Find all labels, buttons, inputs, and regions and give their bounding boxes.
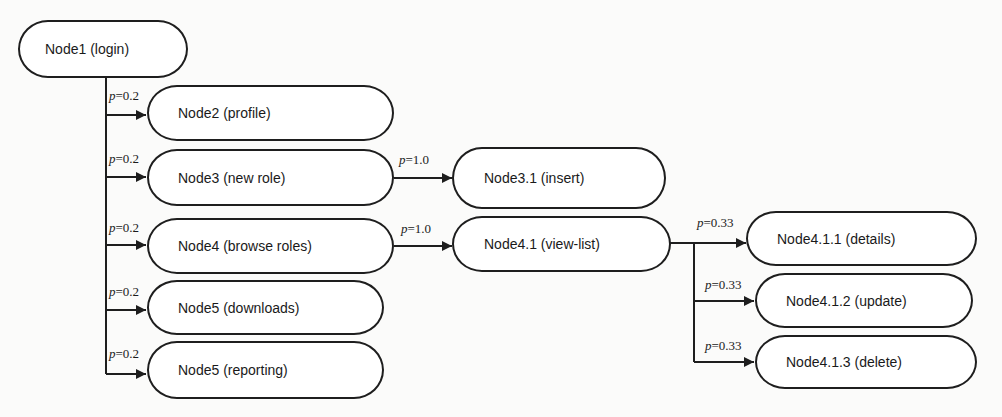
edge-label-node5a: p=0.2 <box>109 284 139 300</box>
node-label: Node5 (downloads) <box>178 300 299 316</box>
node-label: Node4.1 (view-list) <box>484 236 600 252</box>
node-label: Node3.1 (insert) <box>484 170 584 186</box>
node-label: Node4 (browse roles) <box>178 238 312 254</box>
node-label: Node1 (login) <box>45 41 129 57</box>
node-label: Node3 (new role) <box>178 170 285 186</box>
node-update: Node4.1.2 (update) <box>755 273 973 328</box>
node-label: Node4.1.3 (delete) <box>786 354 902 370</box>
node-delete: Node4.1.3 (delete) <box>755 335 977 389</box>
edge-label-node2: p=0.2 <box>109 88 139 104</box>
node-browse-roles: Node4 (browse roles) <box>147 218 394 274</box>
node-label: Node4.1.2 (update) <box>786 293 907 309</box>
edge-label-node4_1_2: p=0.33 <box>705 277 742 293</box>
edge-label-node4_1: p=1.0 <box>401 221 431 237</box>
edge-label-node4: p=0.2 <box>109 220 139 236</box>
node-profile: Node2 (profile) <box>147 85 394 141</box>
node-login: Node1 (login) <box>18 20 188 78</box>
node-label: Node2 (profile) <box>178 105 271 121</box>
node-label: Node5 (reporting) <box>178 362 288 378</box>
edge-label-node4_1_1: p=0.33 <box>697 215 734 231</box>
node-details: Node4.1.1 (details) <box>746 211 977 266</box>
node-downloads: Node5 (downloads) <box>147 280 384 335</box>
node-reporting: Node5 (reporting) <box>147 341 384 399</box>
edge-label-node4_1_3: p=0.33 <box>705 338 742 354</box>
edge-label-node5b: p=0.2 <box>109 346 139 362</box>
node-label: Node4.1.1 (details) <box>777 231 895 247</box>
node-view-list: Node4.1 (view-list) <box>452 216 671 272</box>
edge-label-node3: p=0.2 <box>109 151 139 167</box>
node-insert: Node3.1 (insert) <box>452 147 666 209</box>
edge-label-node3_1: p=1.0 <box>399 152 429 168</box>
node-new-role: Node3 (new role) <box>147 149 394 206</box>
